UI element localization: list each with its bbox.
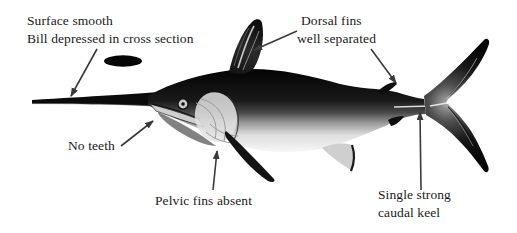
arrow-caudal-keel xyxy=(420,112,421,190)
label-bill-surface-line1: Surface smooth xyxy=(27,12,194,30)
label-pelvic-fins-text: Pelvic fins absent xyxy=(155,192,252,210)
label-dorsal-fins-line2: well separated xyxy=(297,30,376,48)
label-no-teeth-text: No teeth xyxy=(68,137,115,155)
bill-cross-section-ellipse xyxy=(104,55,142,67)
label-no-teeth: No teeth xyxy=(68,137,115,155)
eye-pupil xyxy=(181,102,185,106)
label-pelvic-fins: Pelvic fins absent xyxy=(155,192,252,210)
label-caudal-keel-line1: Single strong xyxy=(378,186,451,204)
arrow-pelvic xyxy=(213,151,217,190)
label-caudal-keel: Single strong caudal keel xyxy=(378,186,451,222)
label-caudal-keel-line2: caudal keel xyxy=(378,204,451,222)
swordfish-diagram: Surface smooth Bill depressed in cross s… xyxy=(0,0,517,233)
arrow-dorsal-fin2 xyxy=(371,49,396,83)
label-bill-surface: Surface smooth Bill depressed in cross s… xyxy=(27,12,194,48)
arrow-no-teeth xyxy=(121,121,153,146)
arrow-bill xyxy=(71,49,97,96)
fish-body xyxy=(148,69,426,152)
label-dorsal-fins-line1: Dorsal fins xyxy=(301,12,376,30)
label-dorsal-fins: Dorsal fins well separated xyxy=(297,12,376,48)
label-bill-surface-line2: Bill depressed in cross section xyxy=(27,30,194,48)
anal-fin xyxy=(322,144,354,170)
